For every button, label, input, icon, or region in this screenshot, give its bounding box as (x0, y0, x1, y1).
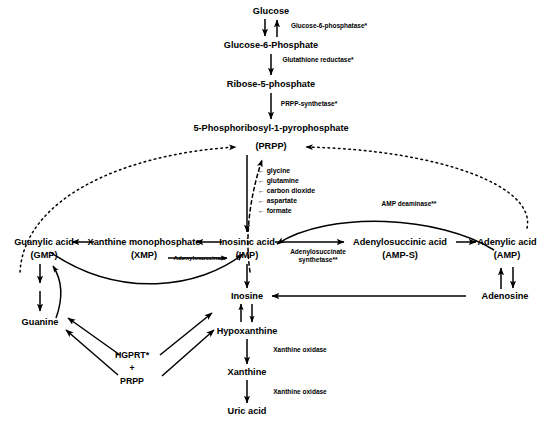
substrate-arrow-icon: ← (258, 187, 265, 194)
node-xanthine-monophosphate: Xanthine monophosphate (88, 237, 201, 247)
node-adenylic-acid: Adenylic acid (477, 237, 536, 247)
node-prpp-full: 5-Phosphoribosyl-1-pyrophosphate (193, 123, 348, 133)
node-guanine: Guanine (22, 317, 59, 327)
enzyme-ads-line2: synthetase** (298, 256, 337, 263)
substrate-item: ← glycine (258, 168, 315, 175)
substrate-label: glutamine (267, 177, 299, 184)
node-ribose-5-phosphate: Ribose-5-phosphate (227, 79, 315, 89)
node-glucose: Glucose (253, 6, 289, 16)
node-xanthine: Xanthine (228, 367, 267, 377)
node-inosine: Inosine (231, 291, 263, 301)
node-prpp: (PRPP) (255, 141, 286, 151)
node-hypoxanthine: Hypoxanthine (217, 326, 278, 336)
substrate-item: ← carbon dioxide (258, 188, 315, 195)
node-imp-abbr: (IMP) (236, 250, 258, 260)
node-uric-acid: Uric acid (228, 406, 267, 416)
node-adenylosuccinic-acid: Adenylosuccinic acid (353, 237, 447, 247)
enzyme-adenylosuccinate-synthetase: Adenylosuccinate synthetase** (290, 248, 346, 263)
label-hgprt: HGPRT* (115, 351, 149, 361)
enzyme-glutathione-reductase: Glutathione reductase* (282, 56, 353, 64)
substrate-label: glycine (267, 167, 290, 174)
label-adenylosuccinate: Adenylosuccinate (174, 254, 227, 261)
enzyme-amp-deaminase: AMP deaminase** (382, 200, 437, 208)
label-prpp-salvage: PRPP (120, 377, 144, 387)
node-glucose-6-phosphate: Glucose-6-Phosphate (224, 40, 318, 50)
node-gmp-abbr: (GMP) (30, 250, 57, 260)
substrate-arrow-icon: ← (258, 207, 265, 214)
substrate-arrow-icon: ← (258, 177, 265, 184)
substrate-item: ← formate (258, 208, 315, 215)
substrate-label: aspartate (267, 197, 297, 204)
enzyme-ads-line1: Adenylosuccinate (290, 248, 346, 255)
substrate-label: formate (267, 207, 292, 214)
node-adenosine: Adenosine (482, 291, 529, 301)
substrate-arrow-icon: ← (258, 167, 265, 174)
enzyme-xanthine-oxidase-2: Xanthine oxidase (273, 388, 326, 396)
node-guanylic-acid: Guanylic acid (14, 237, 74, 247)
pathway-diagram: Glucose Glucose-6-Phosphate Ribose-5-pho… (0, 0, 551, 429)
substrate-item: ← glutamine (258, 178, 315, 185)
node-amp-s-abbr: (AMP-S) (382, 250, 418, 260)
enzyme-glucose-6-phosphatase: Glucose-6-phosphatase* (291, 22, 367, 30)
substrate-item: ← aspartate (258, 198, 315, 205)
node-xmp-abbr: (XMP) (131, 250, 157, 260)
enzyme-xanthine-oxidase-1: Xanthine oxidase (273, 346, 326, 354)
substrate-label: carbon dioxide (267, 187, 315, 194)
enzyme-prpp-synthetase: PRPP-synthetase* (281, 100, 337, 108)
substrate-arrow-icon: ← (258, 197, 265, 204)
node-amp-abbr: (AMP) (494, 250, 521, 260)
substrate-list: ← glycine ← glutamine ← carbon dioxide ←… (258, 168, 315, 217)
node-inosinic-acid: Inosinic acid (219, 237, 275, 247)
label-plus-sign: + (129, 364, 134, 374)
